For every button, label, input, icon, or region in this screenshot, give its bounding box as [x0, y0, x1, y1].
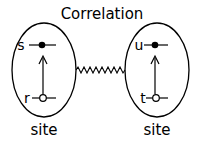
correlation-diagram: Correlation s r site u t site [0, 0, 200, 148]
right-site: u t site [125, 23, 189, 139]
state-s-label: s [17, 37, 24, 53]
left-site: s r site [12, 23, 76, 139]
state-r-label: r [24, 90, 30, 106]
correlation-spring-icon [76, 67, 125, 73]
filled-dot-icon [39, 42, 46, 49]
diagram-title: Correlation [61, 5, 144, 23]
state-u-label: u [135, 37, 144, 53]
filled-dot-icon [152, 42, 159, 49]
state-t-label: t [140, 90, 146, 106]
open-dot-icon [40, 95, 47, 102]
left-site-label: site [30, 121, 57, 139]
open-dot-icon [153, 95, 160, 102]
right-site-label: site [143, 121, 170, 139]
